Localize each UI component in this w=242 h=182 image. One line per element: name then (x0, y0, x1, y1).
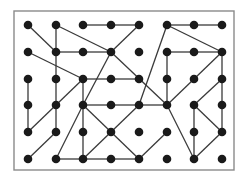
graph-node (163, 101, 172, 110)
graph-node (107, 21, 116, 30)
graph-node (24, 75, 33, 84)
graph-edge (111, 105, 139, 132)
graph-node (79, 155, 88, 164)
graph-edge (28, 132, 56, 159)
graph-node (79, 128, 88, 137)
graph-node (218, 75, 227, 84)
graph-edge (83, 105, 111, 132)
graph-node (79, 21, 88, 30)
graph-node (24, 101, 33, 110)
graph-edge (194, 52, 222, 79)
graph-node (135, 48, 144, 57)
graph-node (163, 128, 172, 137)
graph-node (135, 155, 144, 164)
graph-node (24, 128, 33, 137)
graph-node (190, 75, 199, 84)
graph-node (163, 155, 172, 164)
graph-node (79, 75, 88, 84)
graph-node (107, 48, 116, 57)
graph-node (218, 155, 227, 164)
graph-node (190, 128, 199, 137)
graph-edge (111, 132, 139, 159)
graph-edge (167, 79, 194, 105)
graph-edge (139, 132, 167, 159)
node-layer (24, 21, 227, 164)
graph-edge (111, 25, 139, 52)
graph-node (218, 21, 227, 30)
graph-node (190, 48, 199, 57)
graph-node (24, 155, 33, 164)
graph-node (24, 48, 33, 57)
graph-node (135, 75, 144, 84)
graph-edge (83, 132, 111, 159)
edge-layer (28, 25, 222, 159)
graph-edge (194, 79, 222, 105)
graph-edge (194, 132, 222, 159)
grid-graph-diagram (0, 0, 242, 182)
graph-node (135, 128, 144, 137)
graph-edge (56, 79, 83, 105)
graph-node (135, 21, 144, 30)
graph-edge (28, 105, 56, 132)
graph-node (52, 75, 61, 84)
graph-edge (28, 25, 56, 52)
diagram-frame (14, 11, 234, 170)
graph-node (163, 75, 172, 84)
graph-node (107, 128, 116, 137)
graph-node (79, 48, 88, 57)
graph-node (163, 21, 172, 30)
graph-node (163, 48, 172, 57)
graph-node (218, 128, 227, 137)
graph-node (79, 101, 88, 110)
graph-node (52, 101, 61, 110)
graph-node (52, 128, 61, 137)
graph-node (107, 101, 116, 110)
graph-node (107, 155, 116, 164)
graph-node (190, 21, 199, 30)
graph-node (218, 48, 227, 57)
graph-node (107, 75, 116, 84)
graph-node (52, 155, 61, 164)
graph-node (190, 155, 199, 164)
graph-node (135, 101, 144, 110)
graph-node (218, 101, 227, 110)
graph-node (190, 101, 199, 110)
graph-edge (139, 25, 167, 105)
graph-node (24, 21, 33, 30)
graph-node (52, 21, 61, 30)
graph-edge (194, 105, 222, 132)
graph-node (52, 48, 61, 57)
